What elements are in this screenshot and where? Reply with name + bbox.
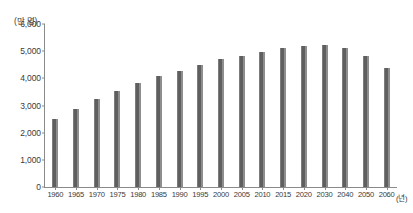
population-bar-chart: (만 명) 01,0002,0003,0004,0005,0006,000 19… — [0, 0, 413, 213]
x-axis-tick-label: 1960 — [47, 190, 63, 199]
bar-group: 2050 — [356, 24, 377, 187]
x-axis-tick-label: 2020 — [296, 190, 312, 199]
x-axis-tick-label: 2005 — [234, 190, 250, 199]
bar-series-총인구: 1960196519701975198019851990199520002005… — [45, 24, 397, 187]
bar-group: 2005 — [231, 24, 252, 187]
x-axis-tick-label: 2030 — [317, 190, 333, 199]
bar — [259, 52, 265, 187]
x-axis-tick-label: 1980 — [130, 190, 146, 199]
bar-group: 1975 — [107, 24, 128, 187]
bar — [301, 46, 307, 187]
y-axis-tick-label: 2,000 — [20, 128, 41, 138]
x-axis-tick-label: 2040 — [337, 190, 353, 199]
bar — [218, 59, 224, 187]
x-axis-tick-label: 1970 — [89, 190, 105, 199]
bar-group: 2040 — [335, 24, 356, 187]
y-axis-tick-label: 5,000 — [20, 46, 41, 56]
bar — [135, 83, 141, 187]
bar-group: 1960 — [45, 24, 66, 187]
plot-area: 01,0002,0003,0004,0005,0006,000 19601965… — [44, 24, 397, 188]
x-axis-tick-label: 2060 — [379, 190, 395, 199]
bar-group: 2060 — [376, 24, 397, 187]
bar-group: 2010 — [252, 24, 273, 187]
bar — [156, 76, 162, 187]
bar-group: 2000 — [211, 24, 232, 187]
bar-group: 2015 — [273, 24, 294, 187]
x-axis-tick-label: 1975 — [110, 190, 126, 199]
x-axis-tick-label: 2010 — [254, 190, 270, 199]
x-axis-tick-label: 2000 — [213, 190, 229, 199]
x-axis-tick-label: 1990 — [172, 190, 188, 199]
bar-group: 2030 — [314, 24, 335, 187]
bar — [177, 71, 183, 187]
bar-group: 1980 — [128, 24, 149, 187]
x-axis-tick-label: 1995 — [192, 190, 208, 199]
x-axis-unit-label: (년) — [396, 192, 407, 203]
y-axis-tick-label: 0 — [36, 182, 41, 192]
bar — [342, 48, 348, 187]
x-axis-tick-label: 1965 — [68, 190, 84, 199]
x-axis-tick-label: 1985 — [151, 190, 167, 199]
bar — [280, 48, 286, 187]
bar-group: 1990 — [169, 24, 190, 187]
bar — [363, 56, 369, 187]
bar — [94, 99, 100, 187]
y-axis-tick-label: 1,000 — [20, 155, 41, 165]
y-axis-tick-label: 6,000 — [20, 19, 41, 29]
bar — [239, 56, 245, 187]
bar — [52, 119, 58, 187]
x-axis-tick-label: 2050 — [358, 190, 374, 199]
bar — [384, 68, 390, 187]
x-axis-tick-label: 2015 — [275, 190, 291, 199]
bar-group: 1995 — [190, 24, 211, 187]
bar — [197, 65, 203, 187]
bar-group: 1970 — [86, 24, 107, 187]
y-axis-tick-label: 4,000 — [20, 73, 41, 83]
bar — [73, 109, 79, 187]
bar-group: 2020 — [293, 24, 314, 187]
bar-group: 1965 — [66, 24, 87, 187]
bar — [322, 45, 328, 187]
y-axis-tick-label: 3,000 — [20, 101, 41, 111]
bar-group: 1985 — [149, 24, 170, 187]
bar — [114, 91, 120, 187]
